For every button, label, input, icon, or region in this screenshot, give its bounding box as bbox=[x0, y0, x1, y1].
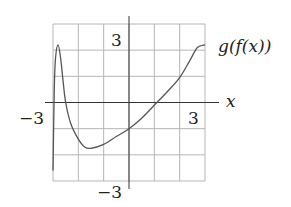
x-axis-label: x bbox=[226, 93, 236, 110]
chart-canvas bbox=[0, 0, 291, 207]
curve-label: g(f(x)) bbox=[218, 38, 271, 55]
y-min-label: −3 bbox=[97, 184, 122, 201]
x-max-label: 3 bbox=[188, 110, 199, 127]
axes bbox=[45, 16, 219, 189]
x-min-label: −3 bbox=[19, 110, 44, 127]
y-max-label: 3 bbox=[111, 32, 122, 49]
